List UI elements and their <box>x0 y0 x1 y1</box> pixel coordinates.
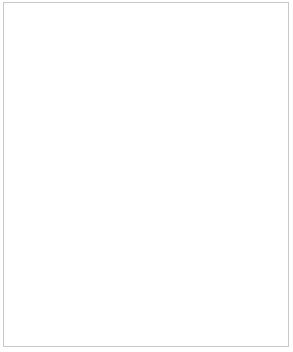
figure-root <box>0 0 293 352</box>
dual-line-chart <box>0 0 293 352</box>
